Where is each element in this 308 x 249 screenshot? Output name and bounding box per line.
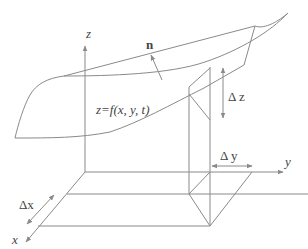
delta-x-label: Δx [19, 197, 34, 212]
x-axis-label: x [11, 232, 18, 247]
x-axis [26, 172, 85, 242]
normal-label: n [146, 37, 154, 52]
surface-diagram: n z y x Δ z Δ y Δx z=f(x, y, t) [0, 0, 308, 249]
column-base-diag3 [210, 172, 252, 226]
surface-top-edge [255, 13, 288, 27]
column-base-diag1 [189, 172, 210, 194]
delta-y-label: Δ y [220, 148, 238, 163]
column-top-diag [189, 68, 210, 87]
column-inner-diag [189, 94, 210, 120]
surface-equation: z=f(x, y, t) [95, 102, 150, 117]
surface-outline [15, 13, 288, 138]
column-base-diag2 [189, 194, 210, 226]
z-axis-label: z [85, 26, 91, 41]
y-axis-label: y [283, 154, 291, 169]
delta-z-label: Δ z [228, 89, 245, 104]
normal-arrow [151, 55, 162, 80]
